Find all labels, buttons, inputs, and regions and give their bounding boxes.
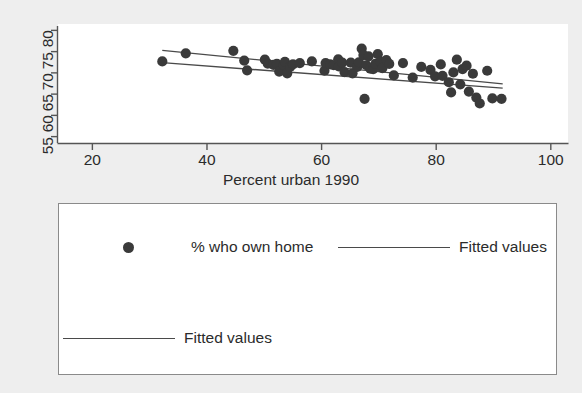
scatter-point: [228, 46, 238, 56]
scatter-point: [482, 66, 492, 76]
x-tick-label-80: 80: [428, 151, 445, 169]
legend-label-fitted-1: Fitted values: [459, 238, 547, 256]
legend-label-fitted-2: Fitted values: [184, 329, 272, 347]
scatter-point: [181, 48, 191, 58]
scatter-point: [487, 93, 497, 103]
scatter-point: [436, 59, 446, 69]
legend-label-fitted-1-wrap: Fitted values: [459, 237, 547, 257]
x-tick-label-20: 20: [84, 151, 101, 169]
legend-line-marker-icon-2: [63, 338, 175, 339]
legend-box: % who own home Fitted values Fitted valu…: [58, 203, 557, 375]
scatter-point: [455, 79, 465, 89]
legend-label-own-home-wrap: % who own home: [191, 237, 313, 257]
scatter-point: [307, 56, 317, 66]
x-tick-label-100: 100: [538, 151, 564, 169]
scatter-point: [461, 61, 471, 71]
scatter-point: [416, 62, 426, 72]
legend-line-marker-icon: [338, 247, 450, 248]
scatter-point: [359, 94, 369, 104]
x-tick-label-60: 60: [313, 151, 330, 169]
scatter-plot-canvas: [58, 24, 568, 143]
scatter-point: [468, 69, 478, 79]
legend-entry-fitted-1: [338, 237, 450, 257]
legend-dot-marker-icon: [123, 242, 134, 253]
legend-entry-own-home: [123, 237, 134, 257]
scatter-point: [496, 94, 506, 104]
scatter-point: [363, 51, 373, 61]
scatter-point: [398, 58, 408, 68]
scatter-point: [448, 67, 458, 77]
scatter-point: [475, 98, 485, 108]
plot-area: [58, 24, 568, 143]
scatter-point: [157, 56, 167, 66]
scatter-point: [384, 59, 394, 69]
scatter-point: [408, 72, 418, 82]
scatter-point: [444, 77, 454, 87]
scatter-point: [452, 55, 462, 65]
scatter-point: [295, 58, 305, 68]
legend-label-fitted-2-wrap: Fitted values: [184, 328, 272, 348]
scatter-point: [239, 55, 249, 65]
chart-figure: 556065707580 20406080100 Percent urban 1…: [0, 0, 582, 393]
x-axis-title: Percent urban 1990: [0, 171, 582, 189]
scatter-point: [446, 87, 456, 97]
legend-entry-fitted-2: [63, 328, 175, 348]
scatter-point: [389, 70, 399, 80]
x-tick-label-40: 40: [198, 151, 215, 169]
y-tick-label-80: 80: [39, 30, 57, 68]
scatter-point: [242, 65, 252, 75]
legend-label-own-home: % who own home: [191, 238, 313, 256]
